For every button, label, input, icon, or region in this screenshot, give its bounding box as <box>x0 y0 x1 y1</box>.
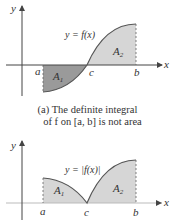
y-label-b: y <box>10 139 16 151</box>
caption-line-2: of f on [a, b] is not area <box>0 116 175 128</box>
x-label-a: x <box>163 58 169 70</box>
tick-b: b <box>134 66 140 78</box>
tick-c: c <box>89 66 94 78</box>
figure-a-plot <box>6 6 162 96</box>
tick-a: a <box>35 65 41 77</box>
curve-label-a: y = f(x) <box>64 29 96 41</box>
region-a1-negative <box>43 65 87 92</box>
y-label-a: y <box>10 2 16 14</box>
tick-c-b: c <box>84 206 89 218</box>
x-label-b: x <box>163 196 169 208</box>
tick-a-b: a <box>40 205 46 217</box>
tick-b-b: b <box>133 206 139 218</box>
caption-line-1: (a) The definite integral <box>0 104 175 116</box>
curve-label-b: y = |f(x)| <box>64 164 101 176</box>
